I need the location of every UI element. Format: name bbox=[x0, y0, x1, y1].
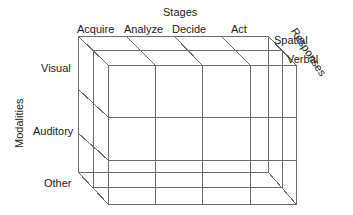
cube-back-face bbox=[78, 36, 268, 172]
stage-label-act: Act bbox=[231, 24, 247, 35]
axis-title-modalities: Modalities bbox=[14, 98, 25, 148]
cube-depth-edges bbox=[78, 36, 296, 204]
modality-label-other: Other bbox=[44, 178, 72, 189]
stage-label-analyze: Analyze bbox=[124, 24, 163, 35]
axis-title-stages: Stages bbox=[163, 7, 197, 18]
figure-canvas: Stages Acquire Analyze Decide Act Spatia… bbox=[0, 0, 353, 215]
cube-middle-depth-layer bbox=[93, 50, 282, 187]
left-face-middle-ticks bbox=[93, 103, 108, 160]
stage-label-decide: Decide bbox=[172, 24, 206, 35]
modality-label-visual: Visual bbox=[41, 63, 71, 74]
front-face-stage-dividers bbox=[155, 65, 250, 204]
modality-label-auditory: Auditory bbox=[33, 126, 73, 137]
stage-label-acquire: Acquire bbox=[77, 24, 114, 35]
